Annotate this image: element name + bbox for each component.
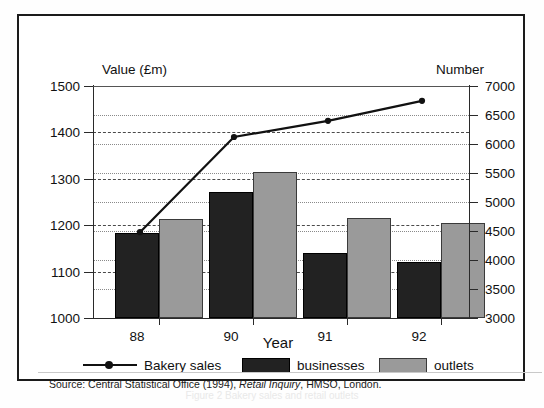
left-ticklabel-1100: 1100 [51,264,80,279]
legend-label-businesses: businesses [297,358,365,373]
left-ticklabel-1500: 1500 [50,79,80,94]
right-tick-4500 [469,231,478,232]
right-tick-5500 [469,173,478,174]
left-axis-spine [93,85,94,319]
right-ticklabel-4500: 4500 [485,224,515,239]
left-ticklabel-1300: 1300 [50,171,80,186]
x-tick-92 [441,318,442,325]
left-tick-1500 [84,86,93,87]
right-ticklabel-4000: 4000 [485,253,515,268]
right-tick-6500 [469,115,478,116]
left-tick-1000 [84,318,93,319]
bakery-sales-polyline [140,101,422,232]
x-tick-91 [347,318,348,325]
bakery-sales-point-91 [325,118,331,124]
figure-caption: Figure 2 Bakery sales and retail outlets [186,390,359,401]
x-axis-spine [93,318,469,319]
bakery-sales-point-90 [231,134,237,140]
left-axis-title: Value (£m) [102,62,167,77]
right-ticklabel-6500: 6500 [485,108,515,123]
right-ticklabel-5500: 5500 [485,166,515,181]
left-tick-1200 [84,225,93,226]
right-tick-6000 [469,144,478,145]
figure-bakery-sales: Value (£m) Number [0,0,544,408]
source-prefix: Source: Central Statistical Office (1994… [49,378,236,390]
right-tick-4000 [469,260,478,261]
left-ticklabel-1400: 1400 [50,125,80,140]
bakery-sales-point-92 [419,98,425,104]
x-tick-88 [159,318,160,325]
right-ticklabel-5000: 5000 [485,195,515,210]
plot-area: 1500 1400 1300 1200 1100 1000 7000 6500 … [93,86,469,318]
right-axis-title: Number [436,62,484,77]
bakery-sales-line [93,86,469,318]
bakery-sales-point-88 [137,229,143,235]
source-divider [38,372,542,373]
x-axis-title: Year [263,334,293,351]
line-marker-icon [83,364,137,366]
x-ticklabel-88: 88 [129,329,144,344]
right-ticklabel-7000: 7000 [485,79,515,94]
right-tick-5000 [469,202,478,203]
source-suffix: , HMSO, London. [300,378,381,390]
right-ticklabel-3500: 3500 [485,282,515,297]
source-note: Source: Central Statistical Office (1994… [49,378,381,390]
right-tick-7000 [469,86,478,87]
x-ticklabel-90: 90 [223,329,238,344]
gray-bar-swatch-icon [379,358,427,373]
left-ticklabel-1200: 1200 [50,218,80,233]
left-tick-1100 [84,272,93,273]
legend-label-bakery-sales: Bakery sales [144,358,221,373]
x-tick-90 [253,318,254,325]
x-ticklabel-92: 92 [411,329,426,344]
left-ticklabel-1000: 1000 [50,311,80,326]
right-tick-3500 [469,289,478,290]
right-ticklabel-3000: 3000 [485,311,515,326]
dark-bar-swatch-icon [242,358,290,373]
top-spine [93,86,469,87]
chart-frame: Value (£m) Number [17,14,525,381]
left-tick-1400 [84,132,93,133]
source-publication: Retail Inquiry [239,378,300,390]
x-ticklabel-91: 91 [317,329,332,344]
right-tick-3000 [469,318,478,319]
right-ticklabel-6000: 6000 [485,137,515,152]
left-tick-1300 [84,179,93,180]
legend-label-outlets: outlets [434,358,474,373]
